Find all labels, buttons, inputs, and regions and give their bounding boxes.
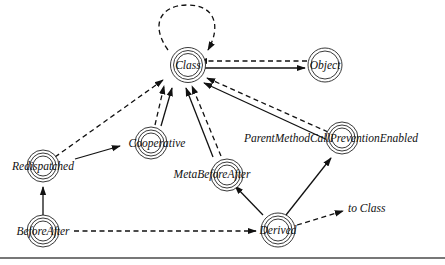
node-object[interactable]: Object	[308, 48, 342, 82]
node-label: Class	[175, 59, 201, 71]
node-redispatched[interactable]: Redispatched	[11, 150, 74, 182]
node-label: Object	[310, 59, 341, 72]
class-diagram: Class Object Redispatched Cooperative Me…	[0, 0, 445, 265]
edge-cooperative-class-solid	[161, 88, 172, 126]
edge-derived-meta	[235, 186, 263, 215]
node-label: Derived	[258, 224, 296, 236]
node-derived[interactable]: Derived	[258, 213, 296, 247]
node-label: ParentMethodCallPreventionEnabled	[243, 132, 418, 144]
node-cooperative[interactable]: Cooperative	[129, 127, 186, 159]
node-label: Cooperative	[129, 137, 186, 150]
node-label: Redispatched	[11, 160, 74, 173]
node-class[interactable]: Class	[171, 48, 206, 83]
edge-redispatched-cooperative	[75, 146, 120, 159]
edge-derived-toclass	[297, 211, 343, 225]
node-beforeafter[interactable]: BeforeAfter	[16, 215, 70, 247]
bottom-rule	[0, 257, 445, 259]
edge-meta-class-dashed	[192, 86, 221, 156]
node-label: MetaBeforeAfter	[173, 168, 251, 181]
to-class-annotation: to Class	[348, 202, 386, 214]
edge-meta-class-solid	[186, 88, 213, 157]
node-metabeforeafter[interactable]: MetaBeforeAfter	[173, 159, 251, 191]
node-parentmethodcallpreventionenabled[interactable]: ParentMethodCallPreventionEnabled	[243, 122, 418, 154]
node-label: BeforeAfter	[16, 225, 70, 238]
edge-class-self	[159, 5, 215, 50]
edge-derived-parent	[286, 158, 331, 215]
edge-parent-class-dashed	[207, 78, 328, 132]
